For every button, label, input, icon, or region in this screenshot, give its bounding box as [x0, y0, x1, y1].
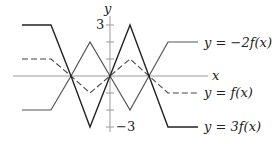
legend-3f: y = 3f(x)	[203, 119, 261, 134]
x-axis-label: x	[212, 68, 220, 83]
y-tick-label-bottom: −3	[116, 119, 135, 134]
y-axis-label: y	[103, 1, 112, 16]
legend-f: y = f(x)	[203, 85, 253, 100]
legend-neg2f: y = −2f(x)	[203, 35, 272, 50]
graph-figure: y x 3 −3 y = −2f(x) y = f(x) y = 3f(x)	[0, 0, 276, 144]
y-tick-label-top: 3	[96, 17, 104, 32]
